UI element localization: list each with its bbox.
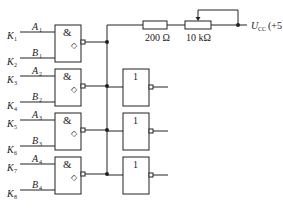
input-b-label: B xyxy=(32,179,38,190)
input-b-label: B xyxy=(32,91,38,102)
open-collector-icon: ◇ xyxy=(71,41,78,50)
switch-subscript: 4 xyxy=(14,106,17,112)
input-b-subscript: 1 xyxy=(39,53,42,59)
and-symbol: & xyxy=(63,70,72,82)
input-a-subscript: 2 xyxy=(39,71,42,77)
resistor-200-label: 200 Ω xyxy=(145,32,170,43)
supply-subscript: CC xyxy=(258,26,266,32)
switch-subscript: 8 xyxy=(14,194,17,200)
switch-subscript: 5 xyxy=(14,124,17,130)
input-a-label: A xyxy=(31,109,39,120)
input-a-label: A xyxy=(31,65,39,76)
open-collector-icon: ◇ xyxy=(71,129,78,138)
switch-subscript: 2 xyxy=(14,62,17,68)
not-symbol: 1 xyxy=(133,159,138,170)
switch-subscript: 7 xyxy=(14,168,17,174)
and-gate-4: &◇A4B4K7K8 xyxy=(6,153,109,200)
and-gate-1: &◇A1B1K1K2 xyxy=(6,21,109,68)
open-collector-icon: ◇ xyxy=(71,85,78,94)
not-symbol: 1 xyxy=(133,71,138,82)
input-a-label: A xyxy=(31,21,39,32)
switch-subscript: 3 xyxy=(14,80,17,86)
circuit-diagram: &◇A1B1K1K2&◇A2B2K3K4&◇A3B3K5K6&◇A4B4K7K8… xyxy=(0,0,283,208)
not-symbol: 1 xyxy=(133,115,138,126)
supply-value: (+5 V) xyxy=(268,20,283,32)
switch-subscript: 6 xyxy=(14,150,17,156)
input-b-subscript: 3 xyxy=(39,141,42,147)
input-a-subscript: 3 xyxy=(39,115,42,121)
resistor-200-ohm xyxy=(143,21,167,29)
input-a-subscript: 4 xyxy=(39,159,42,165)
and-symbol: & xyxy=(63,26,72,38)
wiper-arrow-icon xyxy=(196,17,201,21)
input-b-label: B xyxy=(32,47,38,58)
input-b-subscript: 2 xyxy=(39,97,42,103)
not-gate-1: 1 xyxy=(107,69,168,106)
junction-dot xyxy=(236,23,240,27)
input-b-label: B xyxy=(32,135,38,146)
input-a-label: A xyxy=(31,153,39,164)
input-b-subscript: 4 xyxy=(39,185,42,191)
and-gate-2: &◇A2B2K3K4 xyxy=(6,65,109,112)
resistor-10k-label: 10 kΩ xyxy=(186,32,211,43)
and-symbol: & xyxy=(63,114,72,126)
input-a-subscript: 1 xyxy=(39,27,42,33)
open-collector-icon: ◇ xyxy=(71,173,78,182)
junction-dot xyxy=(105,40,109,44)
switch-subscript: 1 xyxy=(14,36,17,42)
and-symbol: & xyxy=(63,158,72,170)
and-gate-3: &◇A3B3K5K6 xyxy=(6,109,109,156)
not-gate-3: 1 xyxy=(107,157,168,194)
not-gate-2: 1 xyxy=(107,113,168,150)
potentiometer-10k xyxy=(185,21,211,29)
